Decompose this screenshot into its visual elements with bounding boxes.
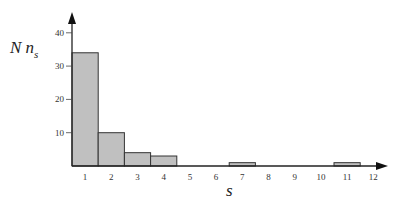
y-tick-label: 40 bbox=[55, 28, 65, 38]
bar-2 bbox=[98, 133, 124, 166]
x-tick-label: 1 bbox=[83, 172, 88, 182]
x-tick-label: 4 bbox=[161, 172, 166, 182]
y-tick-label: 30 bbox=[55, 61, 65, 71]
y-axis-arrow-icon bbox=[68, 12, 76, 24]
x-tick-label: 7 bbox=[240, 172, 245, 182]
histogram-chart: 10203040 123456789101112 N ns s bbox=[0, 0, 412, 209]
y-tick-label: 20 bbox=[55, 94, 65, 104]
x-axis-arrow-icon bbox=[376, 162, 388, 170]
x-tick-label: 5 bbox=[188, 172, 193, 182]
x-tick-label: 8 bbox=[266, 172, 271, 182]
y-tick-label: 10 bbox=[55, 128, 65, 138]
bar-1 bbox=[72, 53, 98, 166]
y-ticks-group: 10203040 bbox=[55, 28, 72, 138]
x-tick-label: 6 bbox=[214, 172, 219, 182]
x-tick-label: 9 bbox=[292, 172, 297, 182]
y-axis-label: N ns bbox=[9, 38, 38, 60]
bar-4 bbox=[151, 156, 177, 166]
bar-3 bbox=[124, 153, 150, 166]
x-axis-label: s bbox=[226, 181, 233, 200]
x-tick-label: 2 bbox=[109, 172, 114, 182]
x-tick-label: 11 bbox=[343, 172, 352, 182]
x-tick-label: 12 bbox=[369, 172, 378, 182]
x-tick-label: 10 bbox=[316, 172, 326, 182]
bars-group bbox=[72, 53, 360, 166]
x-tick-label: 3 bbox=[135, 172, 140, 182]
